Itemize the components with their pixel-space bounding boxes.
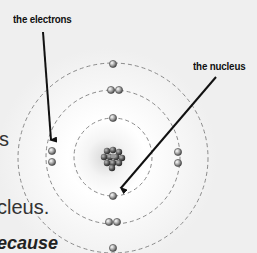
nucleon: [116, 160, 122, 166]
side-text-line-2: cleus.: [0, 196, 49, 219]
electron: [109, 114, 116, 121]
nucleus-label: the nucleus: [193, 60, 245, 72]
electron: [105, 218, 112, 225]
electron: [107, 86, 114, 93]
nucleon: [104, 160, 110, 166]
nucleon: [104, 148, 110, 154]
side-text-line-3: ecause: [0, 233, 58, 253]
electron: [174, 148, 181, 155]
electron: [174, 159, 181, 166]
electron: [109, 192, 116, 199]
electron: [48, 158, 55, 165]
electron: [48, 147, 55, 154]
nucleon: [101, 154, 107, 160]
side-text-line-1: s: [0, 128, 9, 151]
nucleon: [111, 154, 116, 159]
electron: [113, 218, 120, 225]
electron: [115, 86, 122, 93]
electron: [109, 244, 116, 251]
electrons-label: the electrons: [13, 13, 72, 25]
electron: [109, 60, 116, 67]
nucleon: [110, 147, 116, 153]
nucleon: [109, 165, 115, 171]
